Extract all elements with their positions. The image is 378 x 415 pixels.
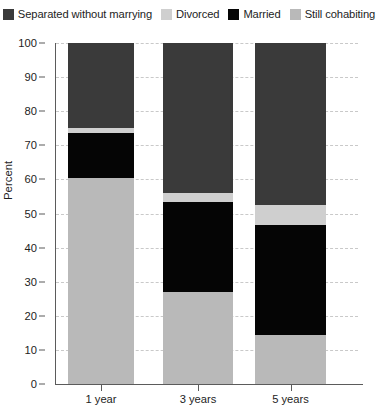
bar-segment[interactable]	[68, 128, 134, 133]
legend-item[interactable]: Divorced	[161, 9, 219, 20]
x-axis-tick-label: 5 years	[272, 393, 309, 405]
bar-stack	[255, 43, 326, 384]
bar-group[interactable]	[68, 43, 134, 384]
x-axis-tick-label: 1 year	[85, 393, 116, 405]
chart-plot-area: Percent 1009080706050403020100 1 year3 y…	[0, 30, 378, 415]
legend-swatch-icon	[3, 9, 14, 20]
legend-swatch-icon	[228, 9, 239, 20]
bar-segment[interactable]	[163, 292, 233, 384]
bar-segment[interactable]	[255, 225, 326, 334]
legend-item-label: Married	[243, 9, 280, 20]
legend-item-label: Separated without marrying	[18, 9, 152, 20]
bar-segment[interactable]	[68, 43, 134, 128]
bar-segment[interactable]	[68, 178, 134, 384]
bar-segment[interactable]	[163, 193, 233, 202]
x-axis-tick-mark	[198, 385, 199, 391]
bar-segment[interactable]	[255, 205, 326, 225]
bar-group[interactable]	[163, 43, 233, 384]
bar-segment[interactable]	[255, 43, 326, 205]
legend-item[interactable]: Married	[228, 9, 280, 20]
chart-bars	[0, 30, 378, 415]
x-axis-tick-mark	[291, 385, 292, 391]
bar-stack	[68, 43, 134, 384]
x-axis-tick-mark	[101, 385, 102, 391]
x-axis-tick-label: 3 years	[180, 393, 217, 405]
bar-segment[interactable]	[255, 335, 326, 384]
legend-swatch-icon	[161, 9, 172, 20]
bar-segment[interactable]	[163, 43, 233, 193]
bar-segment[interactable]	[68, 133, 134, 178]
legend-item[interactable]: Separated without marrying	[3, 9, 152, 20]
bar-group[interactable]	[255, 43, 326, 384]
bar-stack	[163, 43, 233, 384]
legend-swatch-icon	[290, 9, 301, 20]
legend-item-label: Divorced	[176, 9, 219, 20]
bar-segment[interactable]	[163, 202, 233, 292]
legend-item-label: Still cohabiting	[305, 9, 376, 20]
chart-legend: Separated without marryingDivorcedMarrie…	[0, 0, 378, 30]
legend-item[interactable]: Still cohabiting	[290, 9, 376, 20]
